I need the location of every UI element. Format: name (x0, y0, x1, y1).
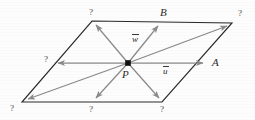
unknown-marker-top-right: ? (238, 9, 242, 18)
side-label-a: A (212, 57, 219, 68)
unknown-marker-bottom-right: ? (160, 105, 164, 114)
origin-label-p: P (122, 69, 129, 80)
vector-up-left (96, 25, 128, 63)
vector-diagram-figure: P A B w u ? ? ? ? ? ? (0, 0, 255, 120)
side-label-b: B (160, 7, 167, 18)
unknown-marker-left-middle: ? (44, 55, 48, 64)
vector-label-u: u (163, 66, 168, 76)
vector-to-bottom-left (28, 63, 128, 99)
vector-label-u-text: u (163, 66, 168, 76)
origin-point-marker (125, 60, 131, 66)
vector-label-w-text: w (132, 34, 138, 44)
unknown-marker-bottom-left: ? (10, 104, 14, 113)
unknown-marker-bottom-middle: ? (89, 105, 93, 114)
unknown-marker-top-left: ? (89, 8, 93, 17)
vector-down-right (128, 63, 159, 98)
vector-label-w: w (132, 34, 138, 44)
